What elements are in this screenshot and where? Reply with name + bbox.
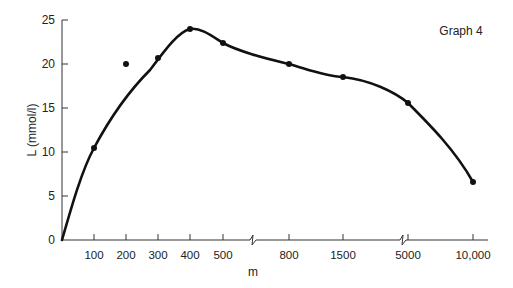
svg-text:5: 5 [48,189,55,203]
data-point [340,74,346,80]
x-tick-labels: 100 200 300 400 500 800 1500 5000 10,000 [84,249,490,261]
svg-text:100: 100 [84,249,103,261]
x-axis-title: m [248,265,258,279]
svg-text:400: 400 [180,249,199,261]
svg-text:10,000: 10,000 [455,249,490,261]
svg-text:800: 800 [279,249,298,261]
data-points [91,26,476,185]
data-point [405,100,411,106]
data-point [123,61,129,67]
svg-text:15: 15 [42,101,56,115]
svg-text:500: 500 [213,249,232,261]
svg-text:25: 25 [42,13,56,27]
data-point [155,55,161,61]
data-point [91,145,97,151]
svg-text:10: 10 [42,145,56,159]
svg-text:1500: 1500 [330,249,356,261]
svg-text:300: 300 [148,249,167,261]
svg-text:5000: 5000 [395,249,421,261]
x-axis [62,234,488,245]
y-axis [62,20,68,240]
data-point [470,179,476,185]
data-point [187,26,193,32]
y-axis-title: L (mmol/l) [25,104,39,157]
chart-title: Graph 4 [439,24,483,38]
svg-text:0: 0 [48,233,55,247]
data-point [286,61,292,67]
svg-text:20: 20 [42,57,56,71]
fitted-curve [62,29,473,240]
data-point [220,40,226,46]
y-tick-labels: 25 20 15 10 5 0 [42,13,56,247]
chart: 25 20 15 10 5 0 100 200 300 400 500 800 … [0,0,513,288]
svg-text:200: 200 [116,249,135,261]
